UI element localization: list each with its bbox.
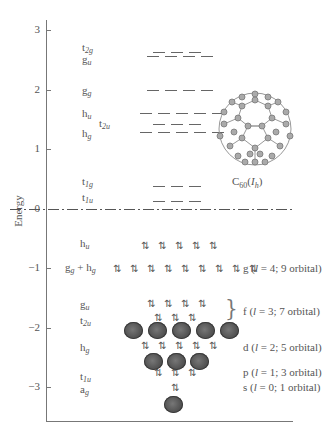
- shell-label-d: d (l = 2; 5 orbital): [243, 341, 322, 353]
- x-axis: [46, 421, 293, 422]
- level-gg-hg-pairs: ⇅ ⇅ ⇅ ⇅ ⇅ ⇅ ⇅ ⇅ ⇅: [112, 264, 258, 274]
- tick-label: 1: [14, 142, 40, 154]
- level-label-gu: gu: [82, 53, 92, 67]
- brace-icon: }: [225, 295, 238, 321]
- electron-pair-icon: ⇅: [170, 383, 180, 393]
- level-gg: [147, 90, 213, 92]
- electron-pair-icon: ⇅: [140, 341, 150, 351]
- level-label-t1u-occ: t1u: [80, 370, 91, 384]
- level-hu-pairs: ⇅ ⇅ ⇅ ⇅ ⇅: [140, 241, 218, 251]
- level-label-ag: ag: [80, 383, 89, 397]
- tick-3: [46, 30, 51, 31]
- electron-pair-icon: ⇅: [208, 241, 218, 251]
- electron-pair-icon: ⇅: [214, 264, 224, 274]
- level-label-gg: gg: [82, 84, 92, 98]
- shell-label-f: f (l = 3; 7 orbital): [243, 305, 320, 317]
- f-orbital-icon: [148, 322, 167, 339]
- level-label-t1g: t1g: [82, 175, 93, 189]
- tick-1: [46, 149, 51, 150]
- c60-molecule-icon: [210, 88, 300, 170]
- tick-label: 3: [14, 23, 40, 35]
- electron-pair-icon: ⇅: [174, 241, 184, 251]
- tick-neg3: [46, 387, 51, 388]
- level-ag-pairs: ⇅: [170, 383, 180, 393]
- electron-pair-icon: ⇅: [157, 341, 167, 351]
- electron-pair-icon: ⇅: [180, 299, 190, 309]
- fermi-level-line: [10, 209, 293, 210]
- f-orbital-icon: [220, 322, 239, 339]
- tick-label: −2: [14, 321, 40, 333]
- tick-neg2: [46, 328, 51, 329]
- electron-pair-icon: ⇅: [112, 264, 122, 274]
- electron-pair-icon: ⇅: [231, 264, 241, 274]
- tick-label: −3: [14, 380, 40, 392]
- level-label-hu: hu: [82, 107, 92, 121]
- tick-2: [46, 90, 51, 91]
- electron-pair-icon: ⇅: [140, 241, 150, 251]
- shell-label-g: g (l = 4; 9 orbital): [243, 262, 322, 274]
- s-orbital-icon: [164, 396, 183, 413]
- level-label-hu-occ: hu: [80, 237, 90, 251]
- f-orbital-icon: [196, 322, 215, 339]
- tick-label: 0: [14, 202, 40, 214]
- f-orbital-icon: [124, 322, 143, 339]
- level-t1g: [153, 186, 201, 188]
- tick-neg1: [46, 268, 51, 269]
- d-orbital-icon: [144, 353, 163, 370]
- level-t2g: [153, 52, 201, 54]
- level-gu-pairs: ⇅ ⇅ ⇅ ⇅: [146, 299, 207, 309]
- level-t2u: [153, 124, 201, 126]
- electron-pair-icon: ⇅: [146, 264, 156, 274]
- electron-pair-icon: ⇅: [191, 241, 201, 251]
- level-gu: [147, 56, 213, 58]
- level-label-gg-hg: gg + hg: [65, 261, 96, 275]
- level-hg-pairs: ⇅ ⇅ ⇅ ⇅ ⇅: [140, 341, 218, 351]
- level-label-hg-occ: hg: [80, 341, 90, 355]
- electron-pair-icon: ⇅: [163, 299, 173, 309]
- c60-label: C60(Ih): [232, 175, 262, 190]
- level-t1u: [153, 201, 201, 203]
- level-label-t2u-occ: t2u: [80, 314, 91, 328]
- tick-label: −1: [14, 261, 40, 273]
- d-orbital-icon: [190, 353, 209, 370]
- electron-pair-icon: ⇅: [191, 341, 201, 351]
- electron-pair-icon: ⇅: [129, 264, 139, 274]
- electron-pair-icon: ⇅: [197, 299, 207, 309]
- d-orbitals: [144, 353, 209, 370]
- y-axis: [46, 20, 47, 421]
- electron-pair-icon: ⇅: [174, 341, 184, 351]
- electron-pair-icon: ⇅: [197, 264, 207, 274]
- electron-pair-icon: ⇅: [157, 241, 167, 251]
- level-label-hg: hg: [82, 127, 92, 141]
- electron-pair-icon: ⇅: [163, 264, 173, 274]
- electron-pair-icon: ⇅: [208, 341, 218, 351]
- level-label-t2u: t2u: [99, 117, 110, 131]
- f-orbitals: [124, 322, 239, 339]
- shell-label-s: s (l = 0; 1 orbital): [243, 381, 320, 393]
- level-label-gu-occ: gu: [80, 298, 90, 312]
- shell-label-p: p (l = 1; 3 orbital): [243, 366, 322, 378]
- electron-pair-icon: ⇅: [180, 264, 190, 274]
- d-orbital-icon: [167, 353, 186, 370]
- f-orbital-icon: [172, 322, 191, 339]
- electron-pair-icon: ⇅: [146, 299, 156, 309]
- level-label-t1u: t1u: [82, 191, 93, 205]
- tick-label: 2: [14, 83, 40, 95]
